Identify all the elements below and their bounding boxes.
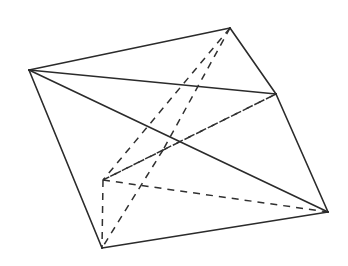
vertex-left-vertex bbox=[28, 69, 30, 71]
vertex-far-right-vertex bbox=[327, 211, 329, 213]
vertex-upper-right-vertex bbox=[275, 93, 277, 95]
vertex-top-vertex bbox=[229, 27, 231, 29]
polyhedron-figure: Wireframe polyhedron Line drawing of a p… bbox=[0, 0, 348, 266]
vertex-bottom-vertex bbox=[101, 247, 103, 249]
